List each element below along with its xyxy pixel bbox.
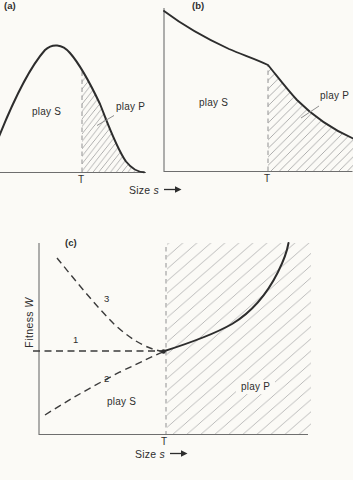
right-arrow-icon: [164, 185, 182, 196]
panel-c-play-s-label: play S: [107, 397, 136, 407]
x-axis-word-bottom: Size: [135, 449, 156, 460]
right-arrow-icon: [170, 449, 188, 460]
y-axis-word: Fitness: [23, 311, 35, 348]
panel-a-play-p-label: play P: [116, 102, 145, 112]
panel-b-tag: (b): [192, 1, 204, 11]
panel-c-threshold-label: T: [161, 437, 167, 447]
y-axis-variable: W: [23, 297, 35, 307]
panel-c-curve-1-label: 1: [73, 335, 79, 345]
x-axis-variable-bottom: s: [159, 449, 165, 460]
panel-c-curve-2-label: 2: [104, 374, 110, 384]
panel-a-tag: (a): [4, 1, 16, 11]
y-axis-label: Fitness W: [23, 282, 36, 364]
panel-c-play-p-label: play P: [236, 380, 275, 394]
panel-a-threshold-label: T: [78, 175, 84, 185]
panel-b-play-s-label: play S: [199, 98, 228, 108]
panel-c-tag: (c): [65, 238, 77, 248]
panel-b-play-p-label: play P: [320, 91, 349, 101]
panel-a-play-s-label: play S: [32, 107, 61, 117]
x-axis-label-bottom: Sizes: [135, 449, 188, 460]
panel-c-convergence-dot: [161, 349, 165, 353]
x-axis-label-top: Sizes: [129, 185, 182, 196]
x-axis-word-top: Size: [129, 185, 150, 196]
panel-c-hatch-region: [167, 243, 311, 435]
figure-geometry: [0, 0, 353, 480]
panel-b-threshold-label: T: [264, 174, 270, 184]
panel-b-fitness-curve: [164, 11, 353, 139]
panel-c-curve-3-label: 3: [104, 294, 110, 304]
x-axis-variable-top: s: [153, 185, 159, 196]
figure-canvas: (a) play S play P T (b) play S play P T …: [0, 0, 353, 480]
